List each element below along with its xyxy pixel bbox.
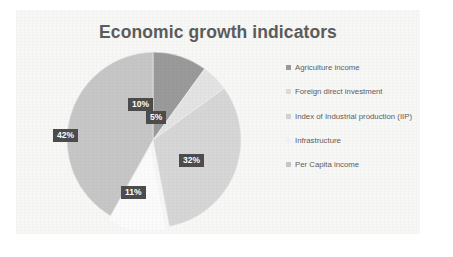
chart-title: Economic growth indicators [16, 22, 420, 43]
legend-swatch-icon [286, 162, 291, 167]
data-label-index-of-industrial-production: 32% [179, 154, 204, 167]
legend-item-foreign-direct-investment[interactable]: Foreign direct investment [286, 86, 418, 97]
slide-canvas: Economic growth indicators 10% 5% 32% 11… [16, 10, 420, 234]
legend-item-label: Per Capita income [295, 159, 359, 170]
legend-swatch-icon [286, 138, 291, 143]
data-label-agriculture-income: 10% [128, 98, 153, 111]
legend-item-label: Infrastructure [295, 135, 341, 146]
legend-item-label: Index of Industrial production (IIP) [295, 111, 412, 122]
data-label-infrastructure: 11% [121, 186, 146, 199]
legend-item-agriculture-income[interactable]: Agriculture income [286, 62, 418, 73]
legend-item-per-capita-income[interactable]: Per Capita income [286, 159, 418, 170]
legend-item-index-of-industrial-production[interactable]: Index of Industrial production (IIP) [286, 111, 418, 122]
legend-swatch-icon [286, 65, 291, 70]
data-label-foreign-direct-investment: 5% [146, 111, 166, 124]
legend-swatch-icon [286, 114, 291, 119]
chart-legend: Agriculture income Foreign direct invest… [286, 62, 418, 183]
legend-item-label: Foreign direct investment [295, 86, 383, 97]
legend-swatch-icon [286, 89, 291, 94]
legend-item-label: Agriculture income [295, 62, 360, 73]
legend-item-infrastructure[interactable]: Infrastructure [286, 135, 418, 146]
data-label-per-capita-income: 42% [53, 129, 78, 142]
